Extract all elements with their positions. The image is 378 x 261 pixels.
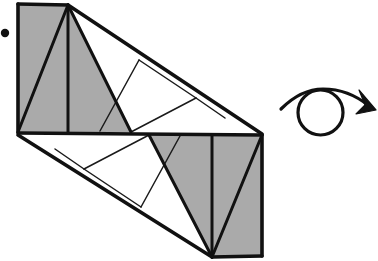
origami-figure	[0, 0, 378, 261]
step-bullet-dot	[1, 29, 9, 37]
edge-upper-top	[18, 4, 68, 5]
edge-lower-bottom	[212, 256, 262, 257]
lower-half-group	[18, 135, 262, 257]
rotate-arrowhead-icon	[356, 90, 376, 114]
rotate-circle-icon	[298, 90, 343, 135]
rotate-figure-symbol	[281, 89, 376, 135]
edge-center-horizontal	[18, 133, 262, 135]
diagram-canvas: Origami Fold Diagram turn over / rotate …	[0, 0, 378, 261]
upper-half-group	[18, 4, 262, 134]
